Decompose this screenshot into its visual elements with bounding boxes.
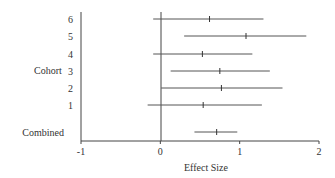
axes	[81, 12, 319, 141]
x-ticks: -1012	[77, 141, 322, 157]
cohort-group-label: Cohort	[34, 65, 62, 76]
forest-row: 1	[68, 100, 262, 111]
forest-plot: -1012 654321Combined Cohort Effect Size	[0, 0, 335, 178]
forest-row: 5	[68, 31, 306, 42]
x-tick-label: 1	[237, 146, 242, 157]
cohort-row-label: 3	[68, 66, 73, 77]
cohort-row-label: 6	[68, 14, 73, 25]
cohort-row-label: 1	[68, 100, 73, 111]
forest-row: 4	[68, 49, 252, 60]
cohort-row-label: 5	[68, 31, 73, 42]
forest-row: 3	[68, 66, 270, 77]
forest-rows: 654321Combined	[22, 14, 306, 138]
x-axis-title: Effect Size	[184, 162, 229, 173]
x-tick-label: 0	[158, 146, 163, 157]
cohort-row-label: 4	[68, 49, 73, 60]
combined-label: Combined	[22, 127, 64, 138]
cohort-row-label: 2	[68, 83, 73, 94]
x-tick-label: -1	[77, 146, 85, 157]
forest-row: 6	[68, 14, 263, 25]
forest-row: 2	[68, 83, 283, 94]
forest-row: Combined	[22, 127, 237, 138]
x-tick-label: 2	[317, 146, 322, 157]
